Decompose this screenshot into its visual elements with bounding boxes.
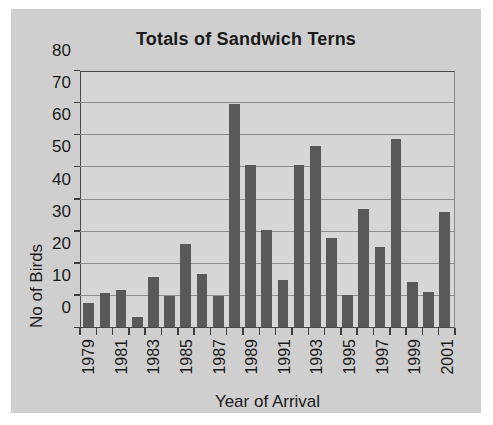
y-axis-tick-mark (74, 198, 80, 200)
bar[interactable] (164, 296, 175, 326)
x-axis-tick-mark (405, 328, 407, 335)
x-axis-tick-mark (96, 328, 98, 335)
x-axis-tick-mark (389, 328, 391, 335)
y-axis-tick-mark (74, 294, 80, 296)
bar-slot (437, 73, 453, 327)
x-axis-tick-mark (226, 328, 228, 335)
x-axis-tick-mark (340, 328, 342, 335)
bar[interactable] (391, 139, 402, 326)
x-axis-tick-mark (128, 328, 130, 335)
y-axis-tick-label: 10 (52, 266, 71, 286)
bar[interactable] (245, 165, 256, 327)
y-axis-tick-label: 0 (62, 298, 71, 318)
x-axis-tick-mark (79, 328, 81, 335)
x-axis-tick-mark (438, 328, 440, 335)
bar[interactable] (407, 282, 418, 326)
y-axis-tick-mark (74, 70, 80, 72)
x-axis-tick-mark (291, 328, 293, 335)
bar-slot (179, 73, 195, 327)
bar[interactable] (278, 280, 289, 326)
bar[interactable] (342, 295, 353, 327)
bar-slot (373, 73, 389, 327)
bar-slot (195, 73, 211, 327)
bar-slot (114, 73, 130, 327)
bar[interactable] (132, 317, 143, 327)
x-axis-tick-mark (259, 328, 261, 335)
x-axis-tick-mark (161, 328, 163, 335)
plot-wrap: 01020304050607080 1979198119831985198719… (80, 71, 455, 328)
bar[interactable] (439, 212, 450, 326)
bar-slot (259, 73, 275, 327)
y-axis-tick-mark (74, 230, 80, 232)
x-axis-tick-mark (356, 328, 358, 335)
x-axis-tick-label: 1997 (374, 339, 392, 375)
x-axis-tick-label: 1985 (178, 339, 196, 375)
bar[interactable] (229, 104, 240, 326)
bar[interactable] (326, 238, 337, 327)
x-axis-tick-mark (112, 328, 114, 335)
bar[interactable] (180, 244, 191, 327)
bar-slot (405, 73, 421, 327)
bar[interactable] (197, 274, 208, 326)
bar[interactable] (375, 247, 386, 326)
y-axis-tick-label: 30 (52, 202, 71, 222)
chart-screenshot: Totals of Sandwich Terns No of Birds 010… (0, 0, 493, 425)
bar-slot (356, 73, 372, 327)
x-axis-title: Year of Arrival (80, 392, 455, 412)
bars-layer (82, 73, 454, 327)
x-axis-tick-mark (308, 328, 310, 335)
x-axis-tick-label: 1995 (341, 339, 359, 375)
bar[interactable] (294, 165, 305, 327)
bar[interactable] (261, 230, 272, 327)
bar-slot (146, 73, 162, 327)
bar[interactable] (310, 146, 321, 327)
bar[interactable] (116, 290, 127, 327)
bar-slot (227, 73, 243, 327)
y-axis-tick-mark (74, 262, 80, 264)
bar-slot (243, 73, 259, 327)
y-axis-tick-label: 70 (52, 73, 71, 93)
y-axis-tick-mark (74, 134, 80, 136)
x-axis-tick-label: 2001 (439, 339, 457, 375)
x-axis-tick-mark (242, 328, 244, 335)
y-axis-tick-label: 20 (52, 234, 71, 254)
bar-slot (340, 73, 356, 327)
x-axis-tick-label: 1981 (113, 339, 131, 375)
x-axis-tick-label: 1983 (145, 339, 163, 375)
x-axis-tick-mark (177, 328, 179, 335)
bar[interactable] (423, 292, 434, 327)
bar-slot (162, 73, 178, 327)
x-axis-tick-label: 1989 (243, 339, 261, 375)
bar-slot (82, 73, 98, 327)
y-axis-tick-label: 80 (52, 41, 71, 61)
x-axis-tick-label: 1987 (211, 339, 229, 375)
x-axis-tick-mark (454, 328, 456, 335)
bar[interactable] (83, 303, 94, 327)
bar-slot (292, 73, 308, 327)
y-axis-tick-mark (74, 166, 80, 168)
bar[interactable] (213, 296, 224, 326)
x-axis-tick-label: 1991 (276, 339, 294, 375)
bar-slot (324, 73, 340, 327)
page-title: Totals of Sandwich Terns (11, 29, 481, 50)
bar[interactable] (358, 209, 369, 326)
bar-slot (98, 73, 114, 327)
x-axis-tick-mark (210, 328, 212, 335)
x-axis-tick-mark (144, 328, 146, 335)
bar-slot (421, 73, 437, 327)
x-axis-tick-mark (324, 328, 326, 335)
bar-slot (389, 73, 405, 327)
bar[interactable] (148, 277, 159, 326)
x-axis-tick-mark (275, 328, 277, 335)
chart-panel: Totals of Sandwich Terns No of Birds 010… (11, 9, 481, 413)
bar-slot (211, 73, 227, 327)
x-axis-tick-mark (373, 328, 375, 335)
y-axis-tick-label: 40 (52, 170, 71, 190)
x-axis-tick-label: 1999 (406, 339, 424, 375)
bar-slot (308, 73, 324, 327)
y-axis-tick-label: 60 (52, 105, 71, 125)
x-axis-tick-mark (193, 328, 195, 335)
bar-slot (276, 73, 292, 327)
y-axis-title: No of Birds (27, 71, 47, 328)
bar[interactable] (100, 293, 111, 326)
